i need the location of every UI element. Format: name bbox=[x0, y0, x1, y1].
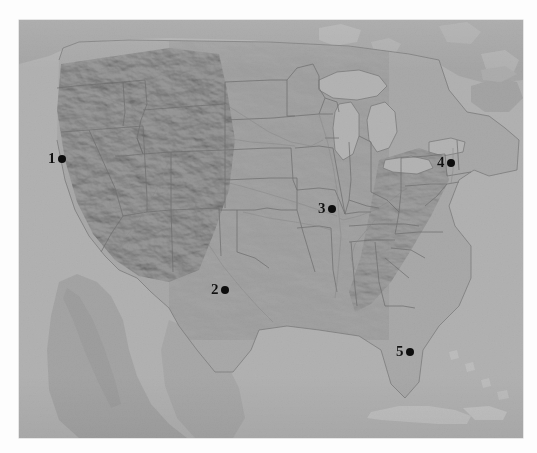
map-canvas bbox=[19, 20, 523, 438]
map-marker-1-label: 1 bbox=[48, 151, 56, 166]
map-marker-5[interactable]: 5 bbox=[396, 344, 414, 359]
paper-grain bbox=[19, 20, 523, 438]
map-figure[interactable]: 1 2 3 4 5 bbox=[19, 20, 523, 438]
map-marker-5-label: 5 bbox=[396, 344, 404, 359]
map-marker-4-label: 4 bbox=[437, 155, 445, 170]
map-marker-3-dot[interactable] bbox=[328, 205, 336, 213]
map-marker-1-dot[interactable] bbox=[58, 155, 66, 163]
map-marker-2-label: 2 bbox=[211, 282, 219, 297]
map-marker-2[interactable]: 2 bbox=[211, 282, 229, 297]
map-marker-3[interactable]: 3 bbox=[318, 201, 336, 216]
map-marker-1[interactable]: 1 bbox=[48, 151, 66, 166]
map-marker-3-label: 3 bbox=[318, 201, 326, 216]
map-marker-5-dot[interactable] bbox=[406, 348, 414, 356]
page-root: 1 2 3 4 5 bbox=[0, 0, 537, 453]
map-marker-2-dot[interactable] bbox=[221, 286, 229, 294]
map-marker-4-dot[interactable] bbox=[447, 159, 455, 167]
map-marker-4[interactable]: 4 bbox=[437, 155, 455, 170]
